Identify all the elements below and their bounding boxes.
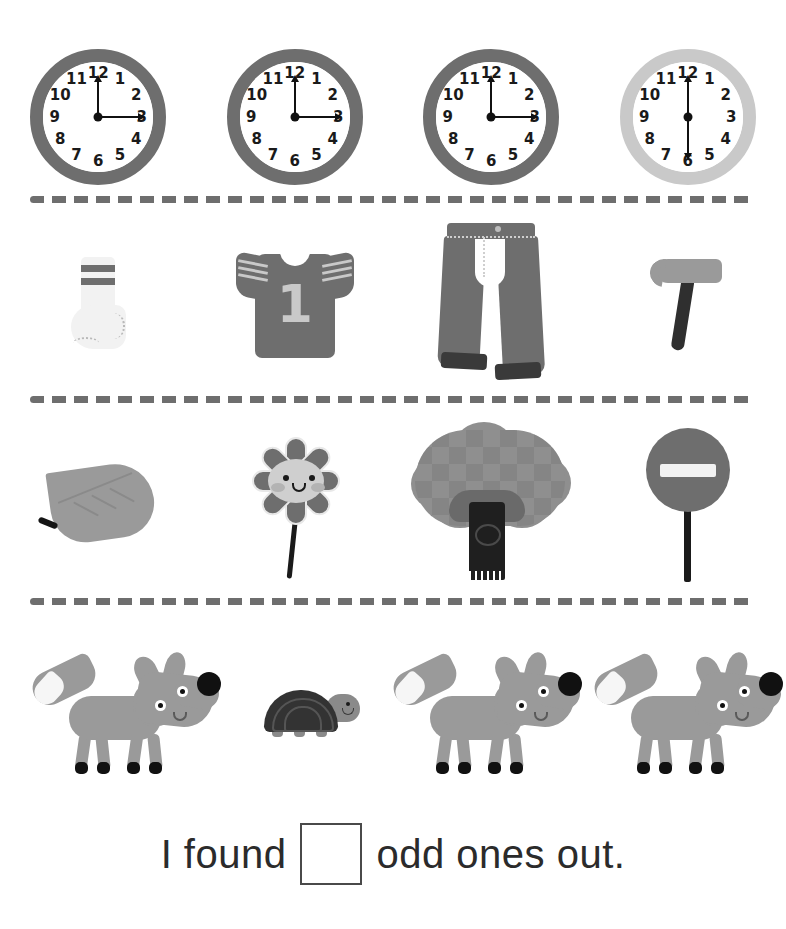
fox-tail-tip: [30, 669, 69, 709]
clock-minute-hand: [294, 79, 296, 117]
fox-paw: [637, 762, 650, 774]
clock-hour-arrow: [138, 113, 145, 121]
clock-item-2[interactable]: 12 1 2 3 4 5 6 7 8 9 10 11: [197, 42, 394, 192]
fox-paw: [689, 762, 702, 774]
answer-input-box[interactable]: [300, 823, 362, 885]
row-divider-3: [30, 598, 756, 605]
fox-paw: [149, 762, 162, 774]
clock-numeral: 5: [311, 148, 321, 163]
clock-numeral: 7: [464, 148, 474, 163]
clock-minute-arrow: [94, 75, 102, 82]
clock-numeral: 4: [131, 131, 141, 146]
nature-item-sign-odd[interactable]: [590, 418, 786, 593]
fox-paw: [659, 762, 672, 774]
clothing-item-jeans[interactable]: [393, 218, 590, 388]
sock-stripe: [81, 278, 115, 285]
clock-numeral: 8: [448, 131, 458, 146]
clock-numeral: 6: [486, 153, 496, 168]
clock-numeral: 2: [131, 88, 141, 103]
animal-item-fox-3[interactable]: [585, 640, 786, 790]
row-divider-1: [30, 196, 756, 203]
jeans-cuff-left: [441, 352, 488, 370]
fox-paw: [75, 762, 88, 774]
flower-cheek: [271, 483, 285, 492]
fox-paw: [97, 762, 110, 774]
fox-paw: [436, 762, 449, 774]
fox-nose: [558, 672, 582, 696]
fox-tail-tip: [592, 669, 631, 709]
clock-numeral: 11: [263, 71, 284, 86]
clocks-row: 12 1 2 3 4 5 6 7 8 9 10 11: [0, 42, 786, 192]
clock-hour-hand: [295, 116, 339, 118]
nature-item-leaf[interactable]: [0, 418, 197, 593]
fox-paw: [127, 762, 140, 774]
jeans-cuff-right: [495, 362, 542, 380]
flower-icon: [235, 431, 355, 581]
worksheet-page: 12 1 2 3 4 5 6 7 8 9 10 11: [0, 0, 786, 929]
clock-hour-arrow: [335, 113, 342, 121]
answer-prefix-text: I found: [161, 832, 287, 877]
jeans-seam: [447, 236, 535, 240]
nature-row: [0, 418, 786, 593]
clock-numeral: 11: [656, 71, 677, 86]
clock-numeral: 9: [50, 110, 60, 125]
jeans-crotch: [475, 237, 505, 287]
animal-item-fox-1[interactable]: [0, 640, 247, 790]
clock-minute-arrow: [487, 75, 495, 82]
fox-eye: [717, 700, 728, 711]
clock-hour-hand: [687, 117, 689, 157]
clock-numeral: 4: [721, 131, 731, 146]
clock-hour-hand: [491, 116, 535, 118]
flower-eye: [283, 475, 289, 481]
animals-row: [0, 640, 786, 790]
clock-face: 12 1 2 3 4 5 6 7 8 9 10 11: [227, 49, 363, 185]
jeans-fly: [483, 237, 487, 277]
clock-hour-hand: [98, 116, 142, 118]
sock-stripe: [81, 265, 115, 272]
hammer-icon: [640, 251, 736, 355]
flower-eye: [309, 475, 315, 481]
fox-icon: [587, 648, 783, 783]
clock-numeral: 7: [268, 148, 278, 163]
clothing-item-tshirt[interactable]: 1: [197, 218, 394, 388]
clock-numeral: 1: [311, 71, 321, 86]
clock-face: 12 1 2 3 4 5 6 7 8 9 10 11: [423, 49, 559, 185]
tshirt-number: 1: [236, 278, 354, 330]
clock-numeral: 10: [50, 88, 71, 103]
fox-icon: [25, 648, 221, 783]
clock-item-1[interactable]: 12 1 2 3 4 5 6 7 8 9 10 11: [0, 42, 197, 192]
clock-numeral: 1: [508, 71, 518, 86]
clock-face: 12 1 2 3 4 5 6 7 8 9 10 11: [30, 49, 166, 185]
clock-item-4-odd[interactable]: 12 1 2 3 4 5 6 7 8 9 10 11: [590, 42, 786, 192]
answer-sentence: I found odd ones out.: [0, 812, 786, 896]
turtle-icon: [264, 684, 366, 746]
clock-pivot: [487, 113, 496, 122]
jeans-icon: [431, 223, 551, 383]
clothing-item-sock[interactable]: [0, 218, 197, 388]
fox-eye: [538, 686, 549, 697]
nature-item-flower[interactable]: [197, 418, 394, 593]
clock-item-3[interactable]: 12 1 2 3 4 5 6 7 8 9 10 11: [393, 42, 590, 192]
clock-numeral: 7: [71, 148, 81, 163]
clock-numeral: 6: [290, 153, 300, 168]
fox-nose: [759, 672, 783, 696]
clock-numeral: 6: [93, 153, 103, 168]
clock-numeral: 2: [524, 88, 534, 103]
fox-eye: [739, 686, 750, 697]
fox-paw: [711, 762, 724, 774]
clock-hour-arrow: [684, 153, 692, 160]
animal-item-turtle-odd[interactable]: [247, 640, 384, 790]
fox-nose: [197, 672, 221, 696]
clock-numeral: 7: [661, 148, 671, 163]
clock-numeral: 5: [115, 148, 125, 163]
sign-post: [684, 508, 691, 582]
clock-numeral: 1: [115, 71, 125, 86]
animal-item-fox-2[interactable]: [384, 640, 585, 790]
fox-eye: [516, 700, 527, 711]
clock-numeral: 3: [726, 110, 736, 125]
clothing-item-hammer-odd[interactable]: [590, 218, 786, 388]
clock-pivot: [290, 113, 299, 122]
clock-numeral: 8: [251, 131, 261, 146]
nature-item-tree[interactable]: [393, 418, 590, 593]
clock-numeral: 2: [721, 88, 731, 103]
